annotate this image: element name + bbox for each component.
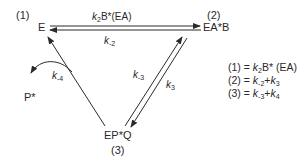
node-eab: EA*B [203,22,229,33]
rate-k-minus3: k-3 [133,70,144,81]
equation-3: (3) = k-3+k4 [228,88,280,100]
rate-k2-forward: k2B*(EA) [92,12,131,23]
rate-k-minus4: k-4 [52,71,63,82]
equation-2: (2) = k-2+k3 [228,75,280,87]
arrow-eab-to-epq [131,38,187,127]
node-e: E [38,22,45,33]
node-p: P* [24,92,36,103]
equation-1: (1) = k2B* (EA) [228,62,297,74]
node-epq: EP*Q [104,130,132,141]
node-e-index: (1) [16,10,29,21]
node-epq-index: (3) [111,145,124,156]
node-eab-index: (2) [207,10,220,21]
rate-k3: k3 [166,80,175,91]
rate-k-minus2: k-2 [104,36,115,47]
